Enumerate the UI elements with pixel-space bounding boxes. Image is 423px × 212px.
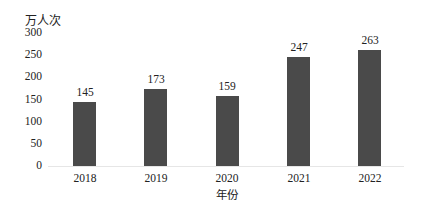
- x-axis-line: [48, 166, 404, 167]
- bar-chart: 万人次 300 250 200 150 100 50 0 145 173 159…: [0, 0, 423, 212]
- data-label-2019: 173: [136, 73, 176, 85]
- data-label-2021: 247: [279, 41, 319, 53]
- data-label-2018: 145: [65, 86, 105, 98]
- y-tick-100: 100: [20, 115, 42, 127]
- bar-2021: [287, 57, 310, 166]
- data-label-2022: 263: [350, 34, 390, 46]
- bar-2022: [358, 50, 381, 166]
- bar-2019: [144, 89, 167, 166]
- y-tick-150: 150: [20, 93, 42, 105]
- bar-2018: [73, 102, 96, 166]
- y-tick-50: 50: [20, 137, 42, 149]
- y-tick-0: 0: [20, 159, 42, 171]
- y-tick-300: 300: [20, 26, 42, 38]
- x-tick-2020: 2020: [207, 172, 247, 184]
- y-tick-200: 200: [20, 70, 42, 82]
- data-label-2020: 159: [207, 80, 247, 92]
- x-axis-title: 年份: [207, 186, 247, 202]
- x-tick-2022: 2022: [350, 172, 390, 184]
- x-tick-2019: 2019: [136, 172, 176, 184]
- x-tick-2021: 2021: [279, 172, 319, 184]
- y-tick-250: 250: [20, 48, 42, 60]
- bar-2020: [216, 96, 239, 166]
- x-tick-2018: 2018: [65, 172, 105, 184]
